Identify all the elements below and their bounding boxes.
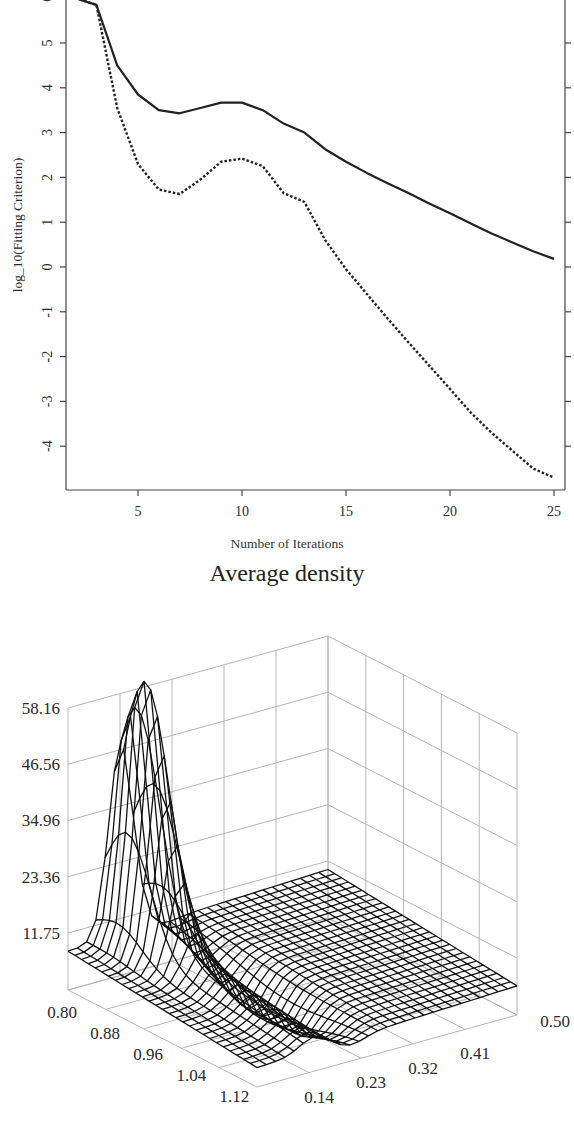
y-tick-label: 5 bbox=[40, 40, 55, 47]
y-tick-label: 2 bbox=[40, 174, 55, 181]
x-tick-label: 10 bbox=[235, 504, 249, 519]
x-tick-label-3d: 0.80 bbox=[47, 1003, 77, 1022]
x-tick-label-3d: 1.04 bbox=[176, 1066, 206, 1085]
y-tick-label: 0 bbox=[40, 264, 55, 271]
x-tick-label: 20 bbox=[443, 504, 457, 519]
y-tick-label: 4 bbox=[40, 84, 55, 91]
y-tick-label-3d: 0.32 bbox=[408, 1059, 438, 1078]
y-tick-label-3d: 0.14 bbox=[304, 1088, 334, 1107]
x-tick-label: 15 bbox=[339, 504, 353, 519]
plot-frame bbox=[66, 0, 565, 490]
x-axis-ticks-3d: 0.800.880.961.041.12 bbox=[47, 1003, 249, 1106]
x-tick-label: 25 bbox=[547, 504, 561, 519]
x-tick-label-3d: 1.12 bbox=[219, 1087, 249, 1106]
z-tick-label: 11.75 bbox=[22, 924, 60, 943]
x-tick-label-3d: 0.88 bbox=[90, 1024, 120, 1043]
z-tick-label: 23.36 bbox=[22, 868, 60, 887]
z-tick-label: 34.96 bbox=[22, 811, 60, 830]
y-tick-label: -4 bbox=[40, 440, 55, 452]
x-axis-ticks: 510152025 bbox=[135, 490, 562, 519]
y-tick-label-3d: 0.50 bbox=[540, 1012, 570, 1031]
y-tick-label: 1 bbox=[40, 219, 55, 226]
series-dashed bbox=[76, 0, 554, 478]
y-tick-label: -1 bbox=[40, 306, 55, 318]
z-tick-label: 46.56 bbox=[22, 755, 60, 774]
surface-chart: 58.1646.5634.9623.3611.75 0.800.880.961.… bbox=[0, 600, 574, 1146]
x-tick-label: 5 bbox=[135, 504, 142, 519]
x-axis-label: Number of Iterations bbox=[0, 536, 574, 552]
y-tick-label: -3 bbox=[40, 396, 55, 408]
y-tick-label: 6 bbox=[40, 0, 55, 2]
surface-chart-title: Average density bbox=[0, 560, 574, 587]
x-tick-label-3d: 0.96 bbox=[133, 1045, 163, 1064]
z-tick-label: 58.16 bbox=[22, 699, 60, 718]
z-axis-ticks: 58.1646.5634.9623.3611.75 bbox=[22, 699, 60, 943]
y-tick-label-3d: 0.41 bbox=[460, 1044, 490, 1063]
line-series bbox=[76, 0, 554, 478]
y-tick-label: -2 bbox=[40, 351, 55, 363]
y-tick-label: 3 bbox=[40, 129, 55, 136]
y-tick-label-3d: 0.23 bbox=[356, 1073, 386, 1092]
y-axis-ticks-3d: 0.140.230.320.410.50 bbox=[304, 1012, 570, 1107]
line-chart: 6543210-1-2-3-4 510152025 log_10(Fitting… bbox=[0, 0, 574, 600]
surface-mesh bbox=[68, 681, 517, 1067]
y-axis-label: log_10(Fitting Criterion) bbox=[10, 158, 25, 293]
